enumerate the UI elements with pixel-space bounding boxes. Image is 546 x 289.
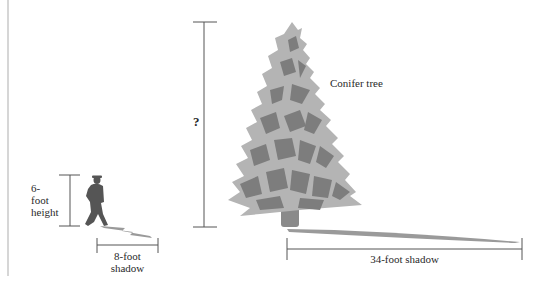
person-shadow-label-line2: shadow bbox=[97, 262, 158, 274]
tree-shadow bbox=[287, 229, 520, 243]
conifer-tree-icon bbox=[228, 22, 362, 227]
person-height-label-line2: foot bbox=[31, 194, 59, 206]
tree-shadow-label: 34-foot shadow bbox=[287, 253, 522, 265]
diagram-canvas bbox=[0, 0, 546, 289]
tree-label: Conifer tree bbox=[330, 77, 383, 89]
person-height-label-line3: height bbox=[31, 206, 59, 218]
person-shadow bbox=[100, 226, 152, 238]
person-icon bbox=[85, 176, 108, 227]
person-height-label: 6- foot height bbox=[31, 182, 59, 218]
unknown-height-label: ? bbox=[193, 116, 200, 128]
person-height-label-line1: 6- bbox=[31, 182, 59, 194]
person-height-bracket bbox=[59, 175, 80, 226]
person-shadow-label: 8-foot shadow bbox=[97, 250, 158, 274]
person-shadow-label-line1: 8-foot bbox=[97, 250, 158, 262]
